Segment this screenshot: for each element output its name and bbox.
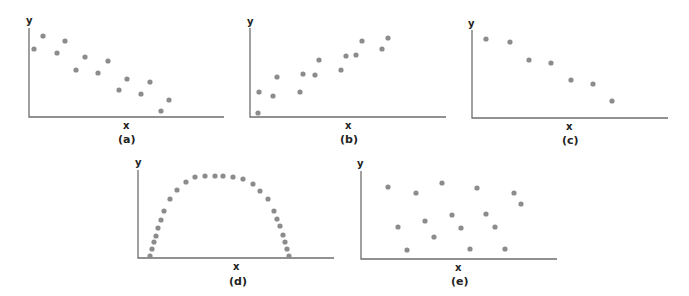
data-point (297, 89, 302, 94)
data-point (312, 72, 317, 77)
data-point (343, 53, 348, 58)
panel-c: y x (c) (468, 18, 668, 147)
xlabel-d: x (233, 261, 240, 272)
data-point (379, 46, 384, 51)
data-point (158, 108, 163, 113)
ylabel-b: y (247, 16, 254, 27)
axes-a (29, 28, 224, 117)
points-e (385, 180, 523, 252)
data-point (483, 36, 488, 41)
caption-a: (a) (118, 133, 135, 146)
data-point (54, 50, 59, 55)
scatter-figure: y x (a) y x (b) y x (c) y x (d) (0, 0, 689, 296)
ylabel-d: y (135, 157, 142, 168)
data-point (568, 77, 573, 82)
axes-b (250, 28, 446, 117)
data-point (274, 74, 279, 79)
caption-d: (d) (229, 275, 247, 288)
points-b (255, 35, 390, 115)
xlabel-c: x (566, 121, 573, 132)
xlabel-b: x (345, 120, 352, 131)
axes-c (472, 30, 668, 118)
xlabel-e: x (455, 262, 462, 273)
data-point (590, 81, 595, 86)
axes-d (138, 170, 334, 258)
data-point (124, 76, 129, 81)
data-point (62, 38, 67, 43)
data-point (31, 46, 36, 51)
data-point (353, 52, 358, 57)
panel-b: y x (b) (247, 16, 446, 146)
panel-a: y x (a) (26, 15, 224, 146)
data-point (116, 87, 121, 92)
ylabel-e: y (357, 158, 364, 169)
data-point (300, 71, 305, 76)
data-point (256, 89, 261, 94)
data-point (138, 91, 143, 96)
data-point (82, 54, 87, 59)
panel-e: y x (e) (357, 158, 557, 288)
axes-e (361, 171, 557, 259)
data-point (609, 98, 614, 103)
caption-b: (b) (340, 133, 358, 146)
panel-d: y x (d) (135, 157, 334, 288)
data-point (526, 57, 531, 62)
data-point (316, 57, 321, 62)
ylabel-a: y (26, 15, 33, 26)
caption-c: (c) (562, 134, 579, 147)
points-c (483, 36, 614, 103)
data-point (507, 39, 512, 44)
data-point (338, 67, 343, 72)
data-point (73, 67, 78, 72)
caption-e: (e) (451, 275, 469, 288)
points-a (31, 33, 171, 113)
ylabel-c: y (468, 18, 475, 29)
data-point (166, 97, 171, 102)
data-point (270, 93, 275, 98)
data-point (359, 38, 364, 43)
data-point (40, 33, 45, 38)
data-point (95, 70, 100, 75)
data-point (147, 79, 152, 84)
points-d (147, 173, 291, 258)
data-point (548, 60, 553, 65)
data-point (385, 35, 390, 40)
xlabel-a: x (123, 120, 130, 131)
data-point (105, 58, 110, 63)
data-point (255, 110, 260, 115)
